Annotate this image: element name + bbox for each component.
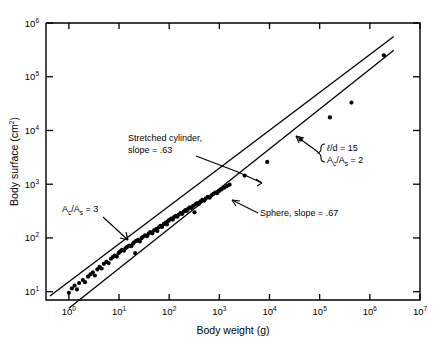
data-point	[133, 251, 137, 255]
data-point	[265, 160, 269, 164]
figure-container: 100101102103104105106107 101102103104105…	[0, 0, 444, 346]
data-point	[67, 291, 71, 295]
data-point	[155, 229, 159, 233]
data-point	[349, 101, 353, 105]
data-point	[100, 266, 104, 270]
data-point	[93, 273, 97, 277]
data-point	[328, 115, 332, 119]
scatter-chart: 100101102103104105106107 101102103104105…	[0, 0, 444, 346]
data-point	[227, 183, 231, 187]
x-axis-title: Body weight (g)	[197, 324, 270, 336]
y-axis-title: Body surface (cm2)	[8, 117, 20, 206]
data-point	[382, 53, 386, 57]
annotation-ld-ratio: ℓ/d = 15	[326, 143, 358, 153]
data-point	[72, 283, 76, 287]
annotation-sphere-slope: Sphere, slope = .67	[260, 208, 338, 218]
annotation-stretched-cylinder-line1: Stretched cylinder,	[128, 133, 202, 143]
annotation-stretched-cylinder-line2: slope = .63	[128, 145, 172, 155]
chart-background	[0, 0, 444, 346]
data-point	[83, 280, 87, 284]
data-point	[75, 287, 79, 291]
data-point	[107, 261, 111, 265]
data-point	[77, 281, 81, 285]
data-point	[192, 210, 196, 214]
